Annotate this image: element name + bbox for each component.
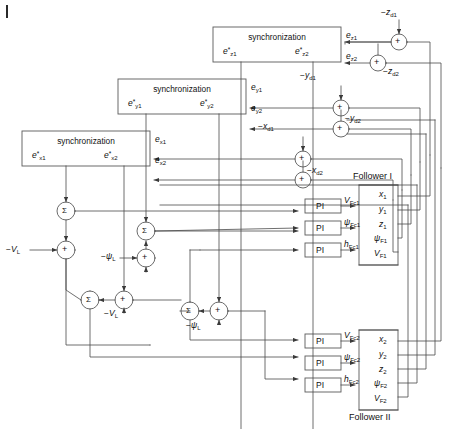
add-node-xd2: + bbox=[299, 174, 304, 184]
signal-ex2: ex2 bbox=[155, 155, 166, 166]
follower-2-label: Follower II bbox=[349, 412, 391, 422]
sync-y-title: synchronization bbox=[118, 84, 246, 94]
sync-x-out-right: e*x2 bbox=[104, 150, 118, 161]
sum-node-3: Σ bbox=[142, 226, 147, 235]
diagram-canvas bbox=[0, 0, 461, 429]
follower-1-output-z: z1 bbox=[379, 219, 387, 230]
add-node-yd2: + bbox=[337, 123, 342, 133]
pi-block-v1: PI bbox=[316, 201, 324, 211]
pi-block-h2: PI bbox=[316, 380, 324, 390]
add-node-1: + bbox=[62, 244, 67, 254]
disturbance-xd2: −xd2 bbox=[307, 165, 323, 176]
signal-ey2: ey2 bbox=[251, 103, 262, 114]
add-node-zd2: + bbox=[374, 57, 379, 67]
signal-psifc1: ψFc1 bbox=[344, 217, 360, 228]
follower-2-output-z: z2 bbox=[379, 364, 387, 375]
add-node-xd1: + bbox=[299, 153, 304, 163]
add-node-3: + bbox=[142, 252, 147, 262]
follower-1-output-x: x1 bbox=[379, 189, 387, 200]
sync-y-out-right: e*y2 bbox=[200, 98, 214, 109]
follower-2-output-y: y2 bbox=[379, 349, 387, 360]
follower-2-output-x: x2 bbox=[379, 334, 387, 345]
sync-z-out-left: e*z1 bbox=[223, 46, 237, 57]
follower-2-output-psi: ψF2 bbox=[374, 378, 387, 389]
follower-1-output-V: VF1 bbox=[374, 248, 387, 259]
signal-ez1: ez1 bbox=[346, 30, 357, 41]
signal-psifc2: ψFc2 bbox=[344, 352, 360, 363]
signal-Vfc2: VFc2 bbox=[344, 330, 360, 341]
add-node-yd1: + bbox=[337, 102, 342, 112]
sync-z-out-right: e*z2 bbox=[295, 46, 309, 57]
leader-input-psiL-lower: −ψL bbox=[186, 320, 201, 331]
sync-z-title: synchronization bbox=[213, 32, 341, 42]
sum-node-2: Σ bbox=[86, 295, 91, 304]
pi-block-h1: PI bbox=[316, 245, 324, 255]
disturbance-zd2: −zd2 bbox=[383, 66, 399, 77]
add-node-2: + bbox=[120, 294, 125, 304]
sum-node-4: Σ bbox=[186, 306, 191, 315]
signal-hfc2: hFc2 bbox=[344, 374, 359, 385]
sync-y-out-left: e*y1 bbox=[128, 98, 142, 109]
add-node-zd1: + bbox=[395, 36, 400, 46]
disturbance-zd1: −zd1 bbox=[381, 7, 397, 18]
disturbance-yd2: −yd2 bbox=[345, 113, 361, 124]
follower-2-output-V: VF2 bbox=[374, 393, 387, 404]
disturbance-xd1: −xd1 bbox=[258, 121, 274, 132]
leader-input-VL-upper: −VL bbox=[6, 244, 20, 255]
disturbance-yd1: −yd1 bbox=[300, 70, 316, 81]
sync-x-title: synchronization bbox=[22, 136, 150, 146]
sum-node-1: Σ bbox=[62, 206, 67, 215]
add-node-4: + bbox=[215, 305, 220, 315]
block-diagram: synchronization e*x1 e*x2 ex1 ex2 synchr… bbox=[0, 0, 461, 429]
pi-block-psi2: PI bbox=[316, 358, 324, 368]
follower-1-output-y: y1 bbox=[379, 204, 387, 215]
signal-ex1: ex1 bbox=[155, 134, 166, 145]
follower-1-output-psi: ψF1 bbox=[374, 233, 387, 244]
leader-input-psiL-upper: −ψL bbox=[101, 251, 116, 262]
pi-block-v2: PI bbox=[316, 336, 324, 346]
signal-ez2: ez2 bbox=[346, 51, 357, 62]
leader-input-VL-lower: −VL bbox=[104, 308, 118, 319]
signal-hfc1: hFc1 bbox=[344, 239, 359, 250]
signal-Vfc1: VFc1 bbox=[344, 195, 360, 206]
sync-x-out-left: e*x1 bbox=[32, 150, 46, 161]
signal-ey1: ey1 bbox=[251, 82, 262, 93]
pi-block-psi1: PI bbox=[316, 223, 324, 233]
follower-1-label: Follower I bbox=[353, 171, 392, 181]
